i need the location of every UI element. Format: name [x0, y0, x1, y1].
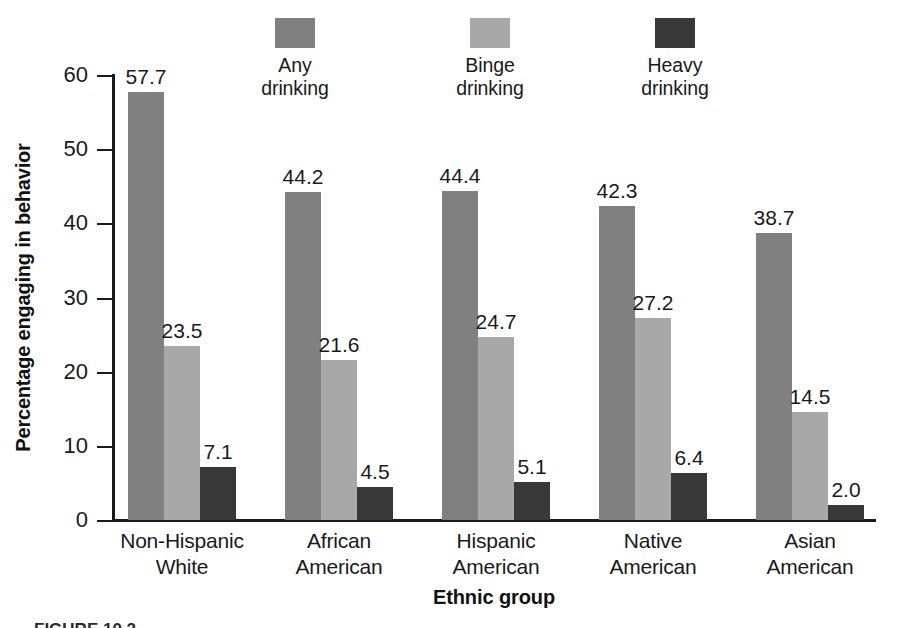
x-label-line1: Asian — [784, 529, 836, 552]
bar-value-label: 2.0 — [831, 478, 860, 502]
y-axis-tick: 50 — [97, 149, 113, 151]
bar-heavy-drinking: 5.1 — [514, 482, 550, 520]
bar-value-label: 23.5 — [162, 319, 203, 343]
bar-value-label: 6.4 — [674, 446, 703, 470]
bar-value-label: 4.5 — [360, 460, 389, 484]
figure-caption: FIGURE 10.2 — [34, 620, 874, 628]
bar-value-label: 38.7 — [754, 206, 795, 230]
bar-value-label: 7.1 — [203, 440, 232, 464]
bar-group-asian-american: 38.7 14.5 2.0 — [756, 75, 864, 520]
y-axis-tick: 20 — [97, 372, 113, 374]
y-axis-tick-label: 10 — [64, 433, 88, 458]
y-axis-tick: 10 — [97, 446, 113, 448]
bar-group-non-hispanic-white: 57.7 23.5 7.1 — [128, 75, 236, 520]
bar-heavy-drinking: 6.4 — [671, 473, 707, 520]
bar-binge-drinking: 21.6 — [321, 360, 357, 520]
bar-value-label: 5.1 — [517, 455, 546, 479]
bar-binge-drinking: 24.7 — [478, 337, 514, 520]
x-label-line1: Non-Hispanic — [120, 529, 244, 552]
bar-binge-drinking: 27.2 — [635, 318, 671, 520]
bar-value-label: 57.7 — [126, 65, 167, 89]
legend-swatch-heavy-drinking — [655, 18, 695, 48]
bar-chart-figure: Any drinking Binge drinking Heavy drinki… — [0, 0, 905, 628]
bar-any-drinking: 57.7 — [128, 92, 164, 520]
y-axis-tick: 40 — [97, 223, 113, 225]
legend-label-line1: Any — [278, 54, 311, 76]
y-axis-tick-label: 20 — [64, 359, 88, 384]
y-axis-tick: 60 — [97, 75, 113, 77]
y-axis-tick-label: 40 — [64, 210, 88, 235]
x-label-line1: Hispanic — [457, 529, 536, 552]
bar-value-label: 24.7 — [476, 310, 517, 334]
y-axis-title: Percentage engaging in behavior — [6, 75, 40, 520]
bar-value-label: 27.2 — [633, 291, 674, 315]
bar-binge-drinking: 14.5 — [792, 412, 828, 520]
bar-value-label: 14.5 — [790, 385, 831, 409]
bar-value-label: 44.2 — [283, 165, 324, 189]
bar-binge-drinking: 23.5 — [164, 346, 200, 520]
bar-any-drinking: 42.3 — [599, 206, 635, 520]
bar-heavy-drinking: 4.5 — [357, 487, 393, 520]
y-axis-tick: 30 — [97, 298, 113, 300]
legend-label-line1: Binge — [465, 54, 514, 76]
x-label-line2: American — [715, 554, 905, 580]
x-label-line1: African — [307, 529, 371, 552]
bar-any-drinking: 44.4 — [442, 191, 478, 520]
legend-label-line1: Heavy — [648, 54, 703, 76]
x-axis-label-asian-american: Asian American — [715, 528, 905, 580]
bar-group-native-american: 42.3 27.2 6.4 — [599, 75, 707, 520]
y-axis-tick-label: 30 — [64, 285, 88, 310]
y-axis-tick-label: 50 — [64, 136, 88, 161]
bar-value-label: 21.6 — [319, 333, 360, 357]
legend-swatch-any-drinking — [275, 18, 315, 48]
legend-swatch-binge-drinking — [470, 18, 510, 48]
bar-heavy-drinking: 2.0 — [828, 505, 864, 520]
x-axis-title: Ethnic group — [113, 586, 875, 609]
plot-area: 0102030405060 57.7 23.5 7.1 44.2 21.6 4.… — [113, 75, 875, 520]
y-axis-tick: 0 — [97, 520, 113, 522]
bar-value-label: 44.4 — [440, 164, 481, 188]
x-label-line1: Native — [624, 529, 682, 552]
bar-value-label: 42.3 — [597, 179, 638, 203]
bar-any-drinking: 38.7 — [756, 233, 792, 520]
bar-group-hispanic-american: 44.4 24.7 5.1 — [442, 75, 550, 520]
bar-any-drinking: 44.2 — [285, 192, 321, 520]
bar-heavy-drinking: 7.1 — [200, 467, 236, 520]
bar-group-african-american: 44.2 21.6 4.5 — [285, 75, 393, 520]
y-axis-tick-label: 60 — [64, 62, 88, 87]
